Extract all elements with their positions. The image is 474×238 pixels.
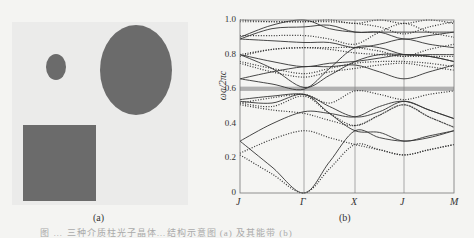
panel-a-label: (a) [93, 212, 104, 223]
large-ellipse [100, 25, 172, 115]
panel-b-label: (b) [339, 212, 351, 223]
y-tick-label: 0.2 [225, 152, 236, 162]
small-circle [46, 54, 66, 80]
x-tick-label: J [236, 196, 240, 207]
y-axis-label: ωa/2πc [217, 71, 228, 100]
panel-a [12, 22, 188, 205]
x-tick-label: X [351, 196, 357, 207]
y-tick-label: 0.8 [225, 49, 236, 59]
panel-b-band-diagram [240, 20, 454, 193]
figure-caption: 图 … 三种介质柱光子晶体…结构示意图 (a) 及其能带 (b) [40, 226, 440, 238]
x-tick-label: J [400, 196, 404, 207]
x-tick-label: Γ [300, 196, 306, 207]
square [23, 125, 96, 201]
band-gap-highlight [240, 87, 454, 91]
y-tick-label: 0.4 [225, 118, 236, 128]
x-tick-label: M [450, 196, 458, 207]
y-tick-label: 1.0 [225, 14, 236, 24]
